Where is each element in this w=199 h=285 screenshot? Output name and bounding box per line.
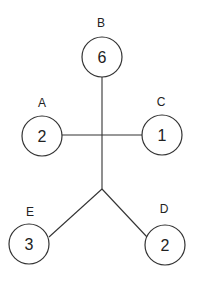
node-e: E 3 [9,205,49,264]
tree-diagram: B 6 A 2 C 1 E 3 D 2 [0,0,199,285]
node-b: B 6 [82,16,122,77]
edge-junction-e [49,189,102,237]
node-c: C 1 [142,95,182,155]
node-value: 2 [161,237,170,254]
node-value: 2 [38,128,47,145]
node-label: D [160,202,169,216]
node-d: D 2 [145,202,185,265]
node-label: C [157,95,166,109]
node-a: A 2 [22,96,62,156]
node-value: 6 [98,49,107,66]
node-label: A [38,96,46,110]
node-value: 1 [158,127,167,144]
edge-junction-d [102,189,147,237]
node-label: B [97,16,105,30]
node-value: 3 [25,236,34,253]
node-label: E [26,205,34,219]
